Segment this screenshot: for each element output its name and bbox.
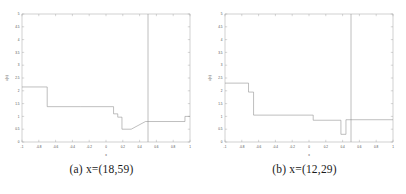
x-tick-label: 1 [189, 145, 191, 149]
plot-b: -1-0.8-0.6-0.4-0.200.20.40.60.81 00.511.… [203, 0, 406, 165]
figure-container: -1-0.8-0.6-0.4-0.200.20.40.60.81 00.511.… [0, 0, 406, 194]
x-tick-label: -1 [224, 145, 227, 149]
caption-a: (a) x=(18,59) [0, 163, 203, 175]
x-tick-label: 0 [308, 145, 310, 149]
y-tick-label: 1.5 [15, 102, 20, 106]
y-tick-label: 3.5 [218, 51, 223, 55]
y-tick-label: 1.5 [218, 102, 223, 106]
x-tick-label: -0.4 [273, 145, 279, 149]
x-axis-label-a: x [105, 153, 107, 157]
y-tick-label: 3 [18, 63, 20, 67]
caption-b: (b) x=(12,29) [203, 163, 406, 175]
y-tick-label: 5 [221, 12, 223, 16]
y-axis-label-b: u(x) [208, 75, 212, 81]
chart-svg-a: -1-0.8-0.6-0.4-0.200.20.40.60.81 00.511.… [0, 0, 203, 165]
x-tick-label: -1 [21, 145, 24, 149]
caption-a-text: (a) x=(18,59) [69, 163, 133, 175]
y-tick-label: 4.5 [15, 25, 20, 29]
y-tick-label: 3 [221, 63, 223, 67]
subfigure-b: -1-0.8-0.6-0.4-0.200.20.40.60.81 00.511.… [203, 0, 406, 194]
x-tick-label: -0.8 [36, 145, 42, 149]
x-tick-label: 0 [105, 145, 107, 149]
y-tick-label: 0 [18, 140, 20, 144]
y-tick-label: 4.5 [218, 25, 223, 29]
x-tick-label: 0.6 [357, 145, 362, 149]
x-tick-label: -0.6 [53, 145, 59, 149]
x-tick-label: -0.8 [239, 145, 245, 149]
x-axis-tick-labels-a: -1-0.8-0.6-0.4-0.200.20.40.60.81 [21, 145, 192, 149]
y-tick-label: 1 [221, 115, 223, 119]
x-axis-label-b: x [308, 153, 310, 157]
y-tick-label: 2 [221, 89, 223, 93]
y-axis-tick-labels-a: 00.511.522.533.544.55 [15, 12, 20, 144]
caption-b-text: (b) x=(12,29) [272, 163, 337, 175]
y-tick-label: 2 [18, 89, 20, 93]
y-tick-label: 5 [18, 12, 20, 16]
y-tick-label: 2.5 [15, 76, 20, 80]
x-tick-label: 0.4 [137, 145, 142, 149]
x-tick-label: -0.4 [70, 145, 76, 149]
subfigure-a: -1-0.8-0.6-0.4-0.200.20.40.60.81 00.511.… [0, 0, 203, 194]
x-tick-label: 0.4 [340, 145, 345, 149]
y-tick-label: 0.5 [218, 127, 223, 131]
y-tick-label: 1 [18, 115, 20, 119]
y-tick-label: 2.5 [218, 76, 223, 80]
x-tick-label: 0.8 [171, 145, 176, 149]
plot-frame-b [225, 14, 393, 142]
x-tick-label: 0.8 [374, 145, 379, 149]
chart-svg-b: -1-0.8-0.6-0.4-0.200.20.40.60.81 00.511.… [203, 0, 406, 165]
y-tick-label: 0.5 [15, 127, 20, 131]
plot-a: -1-0.8-0.6-0.4-0.200.20.40.60.81 00.511.… [0, 0, 203, 165]
y-tick-label: 0 [221, 140, 223, 144]
y-axis-tick-labels-b: 00.511.522.533.544.55 [218, 12, 223, 144]
x-tick-label: -0.6 [256, 145, 262, 149]
x-tick-label: 1 [392, 145, 394, 149]
x-tick-label: 0.2 [324, 145, 329, 149]
x-tick-label: -0.2 [87, 145, 93, 149]
y-tick-label: 4 [18, 38, 20, 42]
y-axis-label-a: u(x) [5, 75, 9, 81]
x-tick-label: 0.6 [154, 145, 159, 149]
y-tick-label: 3.5 [15, 51, 20, 55]
y-tick-label: 4 [221, 38, 223, 42]
x-axis-tick-labels-b: -1-0.8-0.6-0.4-0.200.20.40.60.81 [224, 145, 395, 149]
plot-frame-a [22, 14, 190, 142]
x-tick-label: -0.2 [290, 145, 296, 149]
x-tick-label: 0.2 [121, 145, 126, 149]
